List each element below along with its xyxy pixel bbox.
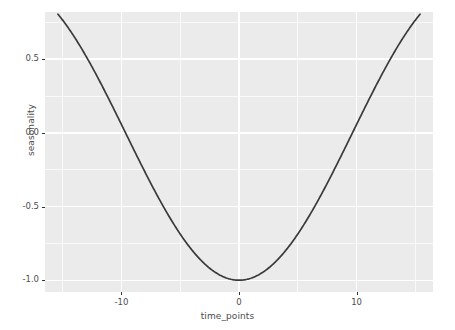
x-tick-label: 10 <box>337 297 377 307</box>
x-tick-label: -10 <box>101 297 141 307</box>
plot-area-svg <box>45 12 433 292</box>
y-axis-title: seasonality <box>26 70 36 190</box>
x-tick-label: 0 <box>219 297 259 307</box>
y-tick-mark <box>42 133 45 134</box>
y-tick-mark <box>42 207 45 208</box>
y-tick-mark <box>42 280 45 281</box>
x-tick-mark <box>239 292 240 295</box>
plot-panel <box>45 12 433 292</box>
chart-container: 0.50.0-0.5-1.0 seasonality -10010 time_p… <box>0 0 455 330</box>
x-tick-mark <box>121 292 122 295</box>
major-gridlines <box>45 12 433 292</box>
x-tick-mark <box>357 292 358 295</box>
y-tick-mark <box>42 59 45 60</box>
y-tick-label: -0.5 <box>5 201 39 211</box>
x-axis-title: time_points <box>0 311 455 321</box>
y-tick-label: 0.5 <box>5 53 39 63</box>
y-tick-label: -1.0 <box>5 274 39 284</box>
